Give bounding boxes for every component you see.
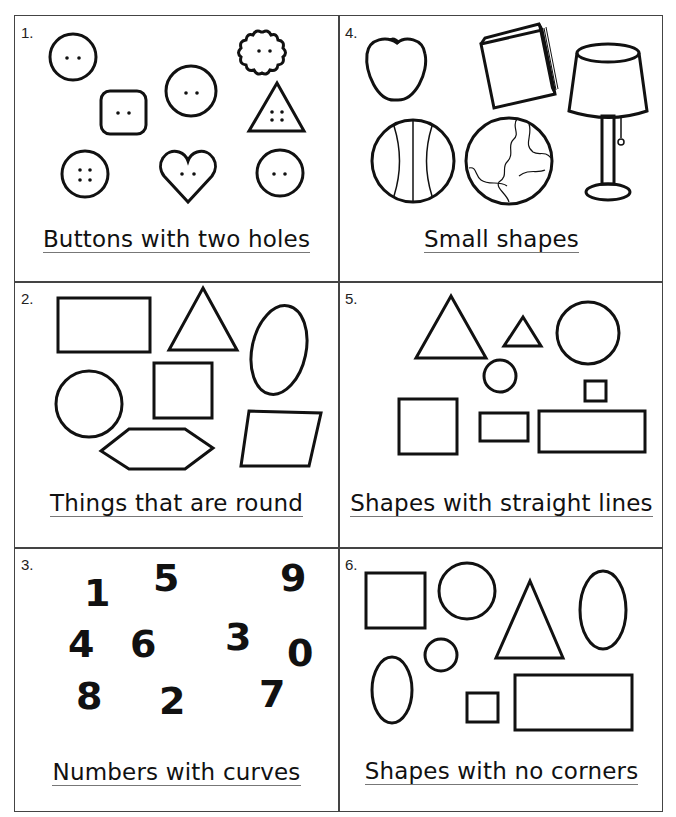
digits-area: 1 5 9 4 6 3 0 8 2 7 — [15, 548, 338, 748]
tiny-square-shape — [585, 381, 606, 401]
lamp-icon — [569, 44, 647, 200]
digit: 7 — [259, 672, 285, 716]
digit: 6 — [130, 622, 156, 666]
worksheet-grid: 1. Buttons with two holes 4. Small shape… — [14, 15, 663, 812]
cell-label: Shapes with straight lines — [339, 490, 664, 517]
cell-label: Shapes with no corners — [339, 758, 664, 785]
square-shape — [399, 399, 457, 454]
small-rectangle-shape — [480, 413, 528, 441]
heart-button-icon — [161, 151, 216, 202]
cell-4-small-shapes: 4. Small shapes — [339, 16, 664, 281]
digit: 5 — [153, 556, 179, 600]
rectangle-shape — [58, 298, 150, 352]
round-button-icon — [257, 150, 303, 196]
triangle-shape — [169, 288, 237, 350]
small-circle-shape — [484, 360, 516, 392]
cell-6-no-corners: 6. Shapes with no corners — [339, 548, 664, 813]
digit: 2 — [159, 679, 185, 723]
small-triangle-shape — [504, 317, 541, 346]
cell-label: Things that are round — [15, 490, 338, 517]
oval-shape — [580, 571, 626, 649]
digit: 8 — [76, 674, 102, 718]
ball-icon — [372, 120, 454, 202]
cell-2-round-things: 2. Things that are round — [15, 282, 338, 547]
cell-label: Buttons with two holes — [15, 226, 338, 253]
triangle-button-icon — [249, 83, 304, 131]
cell-1-buttons: 1. Buttons with two holes — [15, 16, 338, 281]
large-circle-shape — [557, 302, 619, 364]
large-rectangle-shape — [539, 411, 645, 452]
square-shape — [366, 573, 425, 628]
square-button-icon — [101, 91, 146, 134]
flower-button-icon — [239, 31, 286, 74]
small-circle-shape — [425, 639, 457, 671]
digit: 3 — [225, 615, 251, 659]
cell-label: Small shapes — [339, 226, 664, 253]
oval-shape — [243, 300, 315, 399]
digit: 4 — [68, 622, 94, 666]
square-shape — [154, 363, 212, 418]
digit: 1 — [84, 571, 110, 615]
round-button-icon — [50, 34, 96, 80]
cell-label: Numbers with curves — [15, 759, 338, 786]
digit: 9 — [280, 556, 306, 600]
parallelogram-shape — [241, 411, 321, 466]
four-hole-button-icon — [62, 151, 108, 197]
hexagon-shape — [101, 429, 213, 469]
small-square-shape — [467, 693, 498, 722]
circle-shape — [439, 563, 495, 619]
large-triangle-shape — [416, 296, 486, 358]
apple-icon — [367, 39, 426, 100]
oval-shape — [372, 657, 412, 723]
cell-5-straight-lines: 5. Shapes with straight lines — [339, 282, 664, 547]
round-button-icon — [166, 66, 216, 116]
triangle-shape — [496, 581, 563, 658]
digit: 0 — [287, 631, 313, 675]
cell-3-numbers: 3. 1 5 9 4 6 3 0 8 2 7 Numbers with curv… — [15, 548, 338, 813]
book-icon — [481, 24, 558, 108]
globe-icon — [466, 118, 552, 204]
rectangle-shape — [515, 675, 632, 730]
circle-shape — [56, 371, 122, 437]
